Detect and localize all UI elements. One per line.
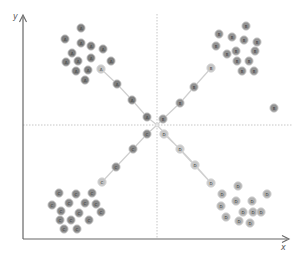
cluster-point-b: B — [251, 47, 259, 55]
svg-text:A: A — [64, 37, 67, 42]
cluster-point-a: A — [99, 45, 107, 53]
path-point-b: B — [159, 115, 167, 123]
cluster-point-a: A — [84, 66, 92, 74]
svg-text:C: C — [70, 218, 73, 223]
svg-text:B: B — [254, 49, 257, 54]
svg-text:B: B — [256, 40, 259, 45]
cluster-point-c: C — [56, 216, 64, 224]
cluster-point-b: B — [233, 57, 241, 65]
svg-text:A: A — [146, 115, 149, 120]
path-point-a: A — [128, 96, 136, 104]
cluster-point-c: C — [81, 199, 89, 207]
path-point-d: D — [160, 130, 168, 138]
scatter-diagram: AAAAAAAAAAAAAAAAABBBBBBBBBBBBBBBBBBCCCCC… — [0, 0, 302, 264]
svg-text:D: D — [178, 147, 181, 152]
svg-text:B: B — [245, 24, 248, 29]
svg-text:C: C — [60, 209, 63, 214]
svg-text:C: C — [91, 191, 94, 196]
cluster-point-b: B — [228, 33, 236, 41]
path-point-c: C — [98, 178, 106, 186]
center-point — [155, 123, 159, 127]
svg-text:A: A — [116, 82, 119, 87]
svg-text:B: B — [215, 44, 218, 49]
svg-text:A: A — [87, 68, 90, 73]
cluster-point-c: C — [92, 200, 100, 208]
svg-text:B: B — [236, 59, 239, 64]
x-axis-label: x — [280, 243, 286, 252]
svg-text:B: B — [162, 117, 165, 122]
cluster-point-a: A — [107, 57, 115, 65]
svg-text:D: D — [236, 184, 239, 189]
cluster-point-a: A — [87, 54, 95, 62]
cluster-point-d: D — [217, 202, 225, 210]
cluster-point-c: C — [65, 199, 73, 207]
cluster-point-b: B — [238, 67, 246, 75]
cluster-point-a: A — [77, 24, 85, 32]
svg-text:A: A — [90, 56, 93, 61]
svg-text:B: B — [226, 52, 229, 57]
svg-text:B: B — [231, 35, 234, 40]
svg-text:C: C — [68, 201, 71, 206]
svg-text:D: D — [220, 192, 223, 197]
svg-text:D: D — [234, 199, 237, 204]
path-point-c: C — [143, 130, 151, 138]
cluster-point-b: B — [223, 50, 231, 58]
svg-text:C: C — [101, 180, 104, 185]
plot-canvas: AAAAAAAAAAAAAAAAABBBBBBBBBBBBBBBBBBCCCCC… — [0, 0, 302, 264]
svg-text:B: B — [253, 69, 256, 74]
svg-text:A: A — [80, 26, 83, 31]
svg-text:A: A — [110, 59, 113, 64]
cluster-point-b: B — [212, 42, 220, 50]
svg-text:B: B — [193, 85, 196, 90]
cluster-point-d: D — [263, 190, 271, 198]
svg-text:A: A — [75, 69, 78, 74]
svg-text:D: D — [209, 181, 212, 186]
svg-text:B: B — [210, 66, 213, 71]
svg-text:C: C — [51, 203, 54, 208]
cluster-point-d: D — [246, 219, 254, 227]
svg-text:C: C — [59, 218, 62, 223]
svg-text:A: A — [71, 51, 74, 56]
svg-text:C: C — [84, 201, 87, 206]
svg-text:B: B — [241, 69, 244, 74]
svg-text:A: A — [84, 78, 87, 83]
data-points: AAAAAAAAAAAAAAAAABBBBBBBBBBBBBBBBBBCCCCC… — [48, 22, 278, 233]
cluster-point-d: D — [239, 208, 247, 216]
svg-text:D: D — [241, 210, 244, 215]
svg-text:C: C — [146, 132, 149, 137]
svg-text:A: A — [80, 41, 83, 46]
svg-text:A: A — [102, 47, 105, 52]
cluster-point-a: A — [68, 49, 76, 57]
cluster-point-d: D — [218, 190, 226, 198]
svg-text:D: D — [237, 219, 240, 224]
cluster-point-b: B — [215, 30, 223, 38]
cluster-point-d: D — [257, 208, 265, 216]
svg-text:B: B — [248, 59, 251, 64]
path-point-d: D — [176, 145, 184, 153]
svg-text:C: C — [88, 218, 91, 223]
cluster-point-d: D — [248, 197, 256, 205]
svg-text:A: A — [131, 98, 134, 103]
path-point-d: D — [207, 179, 215, 187]
y-axis-label: y — [12, 12, 18, 21]
path-point-c: C — [112, 163, 120, 171]
cluster-point-c: C — [75, 209, 83, 217]
cluster-point-a: A — [77, 39, 85, 47]
cluster-point-a: A — [72, 67, 80, 75]
cluster-point-b: B — [250, 67, 258, 75]
svg-text:C: C — [76, 227, 79, 232]
path-point-b: B — [190, 83, 198, 91]
svg-text:C: C — [132, 147, 135, 152]
path-point-a: A — [113, 80, 121, 88]
svg-text:A: A — [90, 44, 93, 49]
cluster-point-b: B — [232, 47, 240, 55]
svg-text:D: D — [162, 132, 165, 137]
cluster-point-c: C — [85, 216, 93, 224]
cluster-point-b: B — [245, 57, 253, 65]
cluster-point-b: B — [270, 104, 278, 112]
cluster-point-c: C — [55, 189, 63, 197]
cluster-point-d: D — [234, 182, 242, 190]
svg-text:B: B — [218, 32, 221, 37]
svg-text:C: C — [100, 210, 103, 215]
cluster-point-d: D — [232, 197, 240, 205]
